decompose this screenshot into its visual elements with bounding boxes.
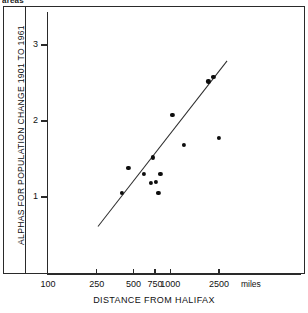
figure-border bbox=[3, 6, 305, 274]
x-axis-unit-label: miles bbox=[241, 279, 261, 289]
x-tick-mark bbox=[96, 269, 97, 275]
y-axis-line bbox=[47, 12, 48, 275]
x-axis-line bbox=[47, 274, 301, 275]
y-tick-mark bbox=[41, 196, 47, 197]
x-tick-label: 1000 bbox=[160, 279, 180, 289]
x-tick-mark bbox=[170, 269, 171, 275]
y-tick-mark bbox=[41, 44, 47, 45]
caption-fragment: areas bbox=[2, 0, 24, 4]
chart-figure: areas ALPHAS FOR POPULATION CHANGE 1901 … bbox=[0, 0, 308, 313]
x-tick-label: 2500 bbox=[209, 279, 229, 289]
x-tick-label: 250 bbox=[89, 279, 104, 289]
y-tick-label: 2 bbox=[18, 115, 38, 125]
x-tick-mark bbox=[133, 269, 134, 275]
x-tick-label: 100 bbox=[40, 279, 55, 289]
x-tick-mark bbox=[154, 269, 155, 275]
x-axis-title: DISTANCE FROM HALIFAX bbox=[0, 295, 308, 305]
x-tick-mark bbox=[218, 269, 219, 275]
x-tick-label: 500 bbox=[126, 279, 141, 289]
y-tick-mark bbox=[41, 120, 47, 121]
y-tick-label: 1 bbox=[18, 191, 38, 201]
y-tick-label: 3 bbox=[18, 39, 38, 49]
